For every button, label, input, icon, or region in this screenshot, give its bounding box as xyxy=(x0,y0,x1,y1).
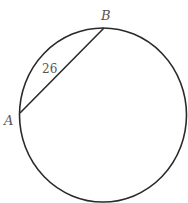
point-b-label: B xyxy=(100,8,111,23)
circle xyxy=(20,28,187,202)
circle-chord-diagram: A B 26 xyxy=(0,0,188,203)
chord-ab xyxy=(20,28,104,113)
point-a-label: A xyxy=(3,113,13,128)
chord-length-label: 26 xyxy=(42,62,57,76)
